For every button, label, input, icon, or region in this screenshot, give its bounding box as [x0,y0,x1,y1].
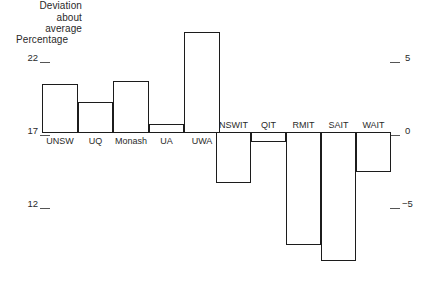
bar-qit [251,132,286,142]
bar-monash [113,81,149,133]
bar-uwa [184,32,220,133]
bar-unsw [42,84,78,133]
bar-ua [149,124,184,133]
ytick-label-plus5: 5 [405,53,431,63]
xtick-label-monash: Monash [111,136,151,146]
right-axis-title-line2: about [0,12,82,24]
bar-chart-plot: Percentage Deviation about average 22 17… [0,0,433,281]
xtick-label-nswit: NSWIT [214,120,253,130]
xtick-label-uwa: UWA [184,136,220,146]
bar-wait [356,132,391,172]
xtick-label-sait: SAIT [321,120,356,130]
xtick-label-qit: QIT [251,120,286,130]
ytick-label-12: 12 [12,199,38,209]
bar-nswit [216,132,251,183]
xtick-label-unsw: UNSW [42,136,78,146]
xtick-label-uq: UQ [78,136,113,146]
ytick-label-22: 22 [12,53,38,63]
right-axis-title-line1: Deviation [0,0,82,12]
xtick-label-rmit: RMIT [286,120,321,130]
bar-uq [78,102,113,133]
right-axis-title: Deviation about average [0,0,82,35]
xtick-label-wait: WAIT [356,120,391,130]
ytick-label-17: 17 [12,126,38,136]
ytick-label-zero: 0 [405,126,431,136]
ytick-mark-plus5 [390,62,400,63]
chart-canvas: Percentage Deviation about average 22 17… [0,0,433,281]
bar-sait [321,132,356,261]
ytick-mark-zero [390,135,400,136]
left-axis-title: Percentage [16,34,68,46]
ytick-mark-22 [40,62,50,63]
bar-rmit [286,132,321,245]
ytick-label-minus5: −5 [402,199,428,209]
right-axis-title-line3: average [0,23,82,35]
ytick-mark-12 [40,208,50,209]
ytick-mark-minus5 [390,208,400,209]
xtick-label-ua: UA [149,136,184,146]
